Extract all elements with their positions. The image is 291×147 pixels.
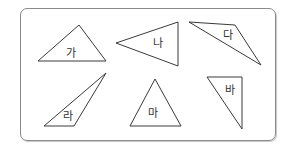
triangle-na: 나 <box>116 22 178 66</box>
triangles-figure: 가 나 다 라 마 바 <box>0 0 291 147</box>
triangle-ba-label: 바 <box>225 84 235 97</box>
triangle-ra: 라 <box>44 73 106 126</box>
triangle-na-label: 나 <box>153 37 163 50</box>
triangle-ra-label: 라 <box>63 110 73 123</box>
triangle-na-shape <box>116 22 178 66</box>
triangle-ma-label: 마 <box>148 107 158 120</box>
triangle-ba: 바 <box>207 77 242 129</box>
triangle-da-label: 다 <box>223 29 233 42</box>
triangle-ga: 가 <box>38 25 106 61</box>
triangle-da: 다 <box>189 22 261 65</box>
triangle-ma: 마 <box>130 79 181 126</box>
triangle-ra-shape <box>44 73 106 126</box>
triangle-ga-label: 가 <box>66 47 76 60</box>
